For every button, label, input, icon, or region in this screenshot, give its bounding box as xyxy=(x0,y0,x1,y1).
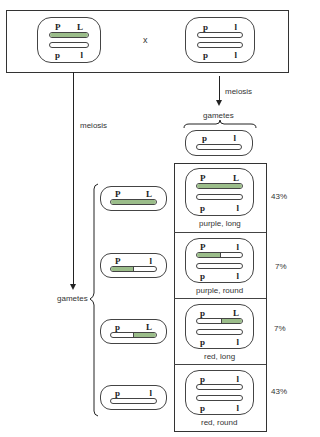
allele: l xyxy=(80,51,83,60)
allele: L xyxy=(77,23,83,32)
phenotype-label: purple, long xyxy=(199,219,241,228)
gamete-cell: p L xyxy=(100,319,167,344)
percentage: 7% xyxy=(274,324,286,333)
allele: P xyxy=(115,257,121,266)
chromosome-green xyxy=(49,32,89,38)
allele: p xyxy=(115,389,120,398)
allele: l xyxy=(236,404,239,413)
cross-symbol: x xyxy=(143,36,148,45)
allele: l xyxy=(236,338,239,347)
allele: p xyxy=(200,309,205,318)
chromosome-white xyxy=(196,395,243,401)
chromosome-white xyxy=(110,398,157,404)
allele: p xyxy=(200,375,205,384)
chromosome-recombinant xyxy=(196,318,243,324)
chromosome-white xyxy=(196,384,243,390)
allele: l xyxy=(236,375,239,384)
allele: l xyxy=(234,23,237,32)
brace-right xyxy=(183,119,257,129)
chromosome-white xyxy=(196,329,243,335)
parent-cell-left: P L p l xyxy=(37,17,101,63)
allele: l xyxy=(149,389,152,398)
chromosome-white xyxy=(196,144,242,150)
offspring-cell: P L p l xyxy=(185,168,254,216)
brace-left xyxy=(88,183,100,417)
allele: P xyxy=(115,190,121,199)
chromosome-white xyxy=(196,263,243,269)
gamete-cell: p l xyxy=(100,385,167,410)
allele: p xyxy=(115,323,120,332)
allele: L xyxy=(233,309,239,318)
gametes-label-left: gametes xyxy=(57,294,88,303)
allele: p xyxy=(202,134,207,143)
chromosome-white xyxy=(196,194,243,200)
chromosome-recombinant xyxy=(196,252,243,258)
allele: L xyxy=(146,323,152,332)
chromosome-recombinant xyxy=(110,266,157,272)
allele: p xyxy=(200,272,205,281)
meiosis-arrow-left xyxy=(73,72,74,284)
allele: l xyxy=(233,134,236,143)
allele: l xyxy=(236,243,239,252)
allele: l xyxy=(234,51,237,60)
gamete-cell: P l xyxy=(100,253,167,278)
allele: P xyxy=(200,174,206,183)
divider xyxy=(174,298,266,299)
divider xyxy=(174,364,266,365)
allele: l xyxy=(236,272,239,281)
parent-cell-right: p l p l xyxy=(185,17,255,63)
divider xyxy=(174,232,266,233)
meiosis-arrow-right xyxy=(219,76,220,100)
allele: L xyxy=(146,190,152,199)
arrowhead-icon xyxy=(70,284,76,290)
allele: l xyxy=(149,257,152,266)
phenotype-label: red, long xyxy=(204,352,235,361)
phenotype-label: purple, round xyxy=(196,286,243,295)
offspring-cell: p L p l xyxy=(185,304,254,349)
allele: l xyxy=(236,204,239,213)
allele: p xyxy=(203,51,208,60)
meiosis-label-right: meiosis xyxy=(225,87,252,96)
percentage: 7% xyxy=(275,262,287,271)
meiosis-label-left: meiosis xyxy=(80,121,107,130)
chromosome-white xyxy=(197,32,243,38)
chromosome-white xyxy=(49,42,89,48)
allele: p xyxy=(55,51,60,60)
phenotype-label: red, round xyxy=(201,418,237,427)
chromosome-recombinant xyxy=(110,332,157,338)
allele: p xyxy=(200,338,205,347)
chromosome-white xyxy=(197,42,243,48)
allele: p xyxy=(200,204,205,213)
allele: p xyxy=(203,23,208,32)
gamete-cell-right: p l xyxy=(185,130,253,156)
arrowhead-icon xyxy=(216,100,222,106)
chromosome-green xyxy=(196,183,243,189)
offspring-cell: P l p l xyxy=(185,238,254,283)
percentage: 43% xyxy=(271,192,287,201)
allele: P xyxy=(200,243,206,252)
offspring-cell: p l p l xyxy=(185,370,254,415)
allele: P xyxy=(55,23,61,32)
chromosome-green xyxy=(110,199,157,205)
percentage: 43% xyxy=(271,387,287,396)
allele: L xyxy=(233,174,239,183)
allele: p xyxy=(200,404,205,413)
gamete-cell: P L xyxy=(100,186,167,211)
